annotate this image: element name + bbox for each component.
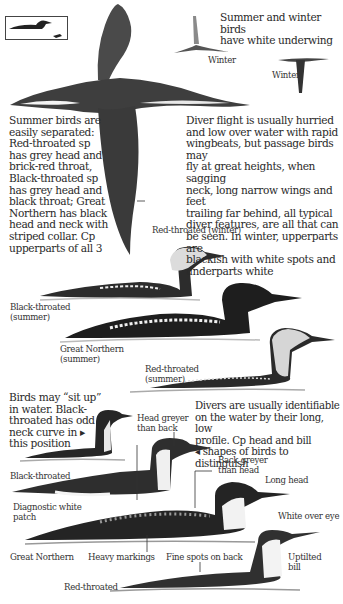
summer-birds-text: Summer birds are easily separated: Red-t… (9, 115, 134, 254)
fine-spots-annotation: Fine spots on back (166, 553, 242, 563)
long-head-annotation: Long head (265, 476, 308, 486)
uptilted-bill-annotation: Uptilted bill (288, 553, 321, 572)
diver-flight-text: Diver flight is usually hurried and low … (186, 115, 343, 277)
great-northern-winter-label: Great Northern (10, 553, 74, 563)
black-throated-winter-label: Black-throated (10, 472, 70, 482)
black-throated-summer-label: Black-throated (summer) (10, 303, 70, 322)
white-over-eye-annotation: White over eye (278, 512, 339, 522)
back-greyer-annotation: Back greyer than head (218, 456, 268, 475)
winter-label-2: Winter (272, 71, 300, 81)
top-caption: Summer and winter birds have white under… (220, 12, 343, 47)
size-comparison-inset (5, 16, 68, 40)
great-northern-summer-label: Great Northern (summer) (60, 345, 124, 364)
sit-up-text: Birds may “sit up” in water. Black- thro… (9, 392, 109, 450)
head-greyer-annotation: Head greyer than back (137, 414, 188, 433)
winter-label-1: Winter (208, 56, 236, 66)
red-throated-winter-label: Red-throated (64, 583, 118, 593)
flying-bird-label: Red-throated (winter) (152, 226, 241, 236)
diagnostic-patch-annotation: Diagnostic white patch (13, 503, 82, 522)
red-throated-summer-label: Red-throated (summer) (145, 365, 199, 384)
heavy-markings-annotation: Heavy markings (88, 553, 155, 563)
